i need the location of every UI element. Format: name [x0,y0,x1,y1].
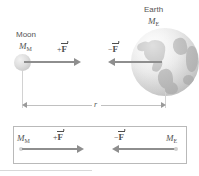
panel-force-on-moon-symbol: F [58,133,64,142]
moon-mass-label: MM [19,42,32,51]
earth-mass-symbol: M [148,16,156,26]
panel-moon-mass-label: MM [17,134,30,143]
dimension-arrowhead-right [161,102,166,108]
force-vector-arrow-left-head [108,58,115,66]
force-vector-arrow-right-head [74,58,81,66]
force-vector-arrow-left [114,61,162,63]
force-on-moon-symbol: F [62,45,68,54]
panel-force-vector-arrow-left [118,148,177,150]
earth-mass-subscript: E [156,21,160,27]
dimension-line-left-segment [26,105,92,106]
moon-name-label: Moon [16,31,36,39]
distance-label: r [94,101,97,109]
dimension-arrowhead-left [22,102,27,108]
panel-earth-mass-symbol: M [166,133,174,143]
force-vector-arrow-right [24,61,76,63]
panel-force-on-earth-label: −F [114,133,124,142]
earth-name-label: Earth [144,6,163,14]
panel-force-vector-arrow-right-head [77,145,84,153]
panel-force-vector-arrow-left-head [112,145,119,153]
force-on-earth-symbol: F [113,45,119,54]
moon-mass-subscript: M [27,46,32,52]
force-on-earth-label: −F [108,45,118,54]
panel-moon-mass-symbol: M [17,133,25,143]
panel-earth-point [174,147,178,151]
panel-force-on-earth-symbol: F [119,133,125,142]
earth-mass-label: ME [148,17,159,26]
moon-mass-symbol: M [19,41,27,51]
panel-moon-mass-subscript: M [25,138,30,144]
physics-figure-gravitation: Earth ME Moon MM +F −F r MM +F [0,0,199,176]
force-on-moon-label: +F [57,45,67,54]
dimension-line-right-segment [101,105,164,106]
free-body-panel: MM +F −F ME [13,126,187,164]
panel-force-vector-arrow-right [22,148,79,150]
panel-earth-mass-subscript: E [174,138,178,144]
panel-force-on-moon-label: +F [53,133,63,142]
page-rule [0,170,92,171]
panel-earth-mass-label: ME [166,134,177,143]
